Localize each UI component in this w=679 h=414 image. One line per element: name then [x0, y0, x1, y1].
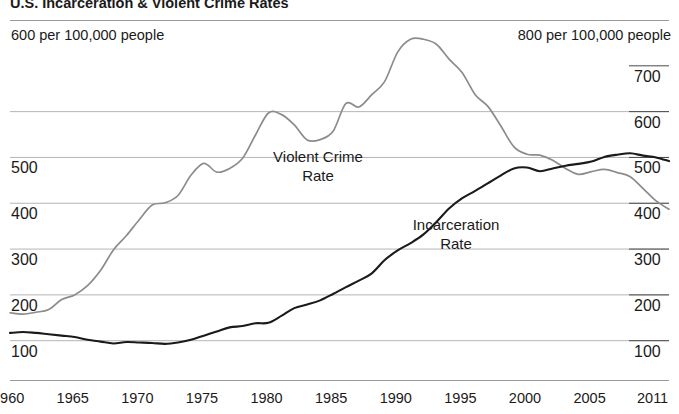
x-tick-1985: 1985 [315, 390, 347, 406]
left-tick-200: 200 [11, 297, 38, 315]
left-tick-500: 500 [11, 159, 38, 177]
x-tick-2011: 2011 [637, 390, 668, 406]
chart-plot-area [0, 0, 679, 414]
x-tick-1990: 1990 [380, 390, 412, 406]
right-tick-300: 300 [634, 251, 661, 269]
left-tick-400: 400 [11, 205, 38, 223]
right-tick-200: 200 [634, 297, 661, 315]
x-tick-1975: 1975 [186, 390, 218, 406]
right-tick-600: 600 [634, 114, 661, 132]
gridlines [10, 112, 669, 341]
right-tick-400: 400 [634, 205, 661, 223]
x-tick-1965: 1965 [57, 390, 89, 406]
x-tick-1960: 1960 [0, 390, 24, 406]
x-tick-1970: 1970 [121, 390, 153, 406]
x-tick-2005: 2005 [573, 390, 605, 406]
right-tick-700: 700 [634, 68, 661, 86]
right-tick-100: 100 [634, 343, 661, 361]
series-lines [10, 38, 669, 344]
incarceration-series-label: Incarceration Rate [396, 216, 516, 254]
right-tick-500: 500 [634, 159, 661, 177]
violent-crime-series-label: Violent Crime Rate [258, 148, 378, 186]
x-tick-1980: 1980 [250, 390, 282, 406]
left-tick-300: 300 [11, 251, 38, 269]
x-tick-1995: 1995 [444, 390, 476, 406]
chart-root: U.S. Incarceration & Violent Crime Rates… [0, 0, 679, 414]
x-tick-2000: 2000 [509, 390, 541, 406]
left-tick-100: 100 [11, 343, 38, 361]
